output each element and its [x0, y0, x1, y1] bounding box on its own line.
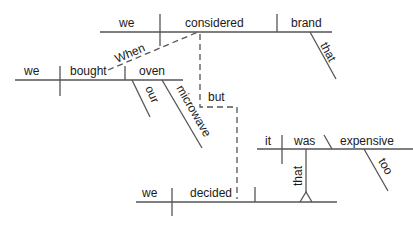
word-but: but — [208, 90, 225, 104]
clause-bought: we bought oven our microwave — [15, 64, 214, 148]
word-we-main: we — [141, 186, 158, 200]
word-oven: oven — [139, 64, 165, 78]
word-we-top: we — [118, 16, 135, 30]
sentence-diagram: we considered brand that When we bought … — [0, 0, 413, 227]
noun-clause-pedestal: that — [291, 149, 312, 202]
word-it: it — [265, 134, 272, 148]
noun-clause: it was expensive too — [257, 134, 413, 191]
word-our: our — [142, 84, 162, 106]
word-we-left: we — [23, 64, 40, 78]
word-that-modifier: that — [317, 40, 339, 65]
word-was: was — [293, 134, 315, 148]
word-brand: brand — [291, 16, 322, 30]
word-expensive: expensive — [340, 134, 394, 148]
word-when: When — [113, 41, 147, 66]
verb-complement-divider — [324, 135, 332, 149]
word-considered: considered — [185, 16, 244, 30]
word-bought: bought — [70, 64, 107, 78]
pedestal-base — [300, 192, 312, 202]
word-decided: decided — [190, 186, 232, 200]
word-that-connector: that — [291, 165, 305, 186]
